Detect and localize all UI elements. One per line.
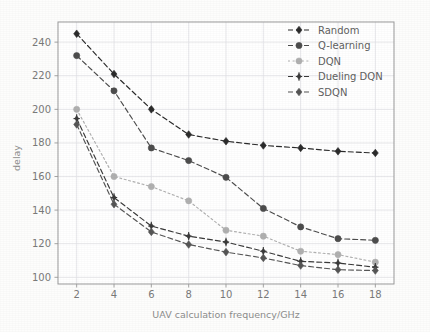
data-point-marker	[186, 157, 192, 163]
data-point-marker	[74, 52, 80, 58]
data-point-marker	[298, 248, 304, 254]
legend-label: Random	[318, 25, 359, 36]
legend-label: DQN	[318, 56, 341, 67]
y-tick-label: 220	[32, 70, 51, 81]
y-tick-label: 140	[32, 205, 51, 216]
data-point-marker	[74, 106, 80, 112]
y-tick-labels: 100120140160180200220240	[32, 37, 51, 283]
x-tick-label: 8	[185, 289, 191, 300]
x-tick-label: 12	[257, 289, 270, 300]
legend-marker-sample	[296, 58, 302, 64]
data-point-marker	[223, 174, 229, 180]
legend-label: Q-learning	[318, 40, 371, 51]
y-tick-label: 200	[32, 104, 51, 115]
legend-label: Dueling DQN	[318, 71, 383, 82]
data-point-marker	[335, 236, 341, 242]
x-axis-label: UAV calculation frequency/GHz	[152, 309, 299, 320]
y-tick-label: 120	[32, 238, 51, 249]
data-point-marker	[335, 252, 341, 258]
line-chart-svg: 24681012141618 100120140160180200220240 …	[0, 0, 430, 332]
data-point-marker	[186, 198, 192, 204]
data-point-marker	[260, 205, 266, 211]
data-point-marker	[223, 227, 229, 233]
legend-label: SDQN	[318, 87, 347, 98]
data-point-marker	[111, 173, 117, 179]
x-tick-label: 10	[220, 289, 233, 300]
data-point-marker	[148, 183, 154, 189]
data-point-marker	[372, 237, 378, 243]
data-point-marker	[111, 88, 117, 94]
chart-figure: 24681012141618 100120140160180200220240 …	[0, 0, 430, 332]
x-tick-label: 6	[148, 289, 154, 300]
x-tick-label: 16	[332, 289, 345, 300]
y-tick-label: 240	[32, 37, 51, 48]
y-tick-label: 180	[32, 137, 51, 148]
data-point-marker	[148, 145, 154, 151]
y-axis-label: delay	[11, 145, 22, 171]
legend-marker-sample	[296, 42, 302, 48]
x-tick-label: 2	[73, 289, 79, 300]
x-tick-label: 4	[111, 289, 117, 300]
x-tick-label: 18	[369, 289, 382, 300]
y-tick-label: 100	[32, 272, 51, 283]
data-point-marker	[298, 224, 304, 230]
x-tick-label: 14	[294, 289, 307, 300]
y-tick-label: 160	[32, 171, 51, 182]
data-point-marker	[260, 233, 266, 239]
x-tick-labels: 24681012141618	[73, 289, 381, 300]
